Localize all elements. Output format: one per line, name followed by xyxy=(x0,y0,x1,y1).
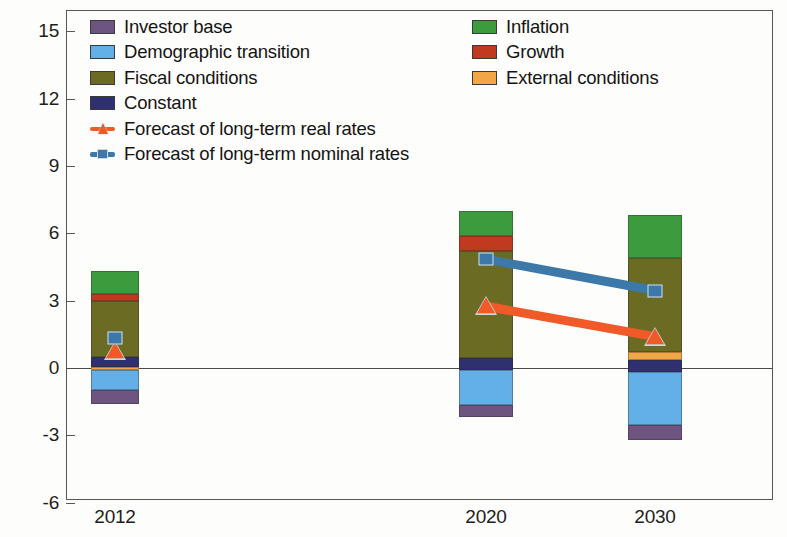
nominal-rate-marker-2020 xyxy=(486,259,501,272)
square-marker-icon xyxy=(97,149,108,159)
chart-legend: Investor baseDemographic transitionFisca… xyxy=(72,14,767,174)
legend-item-investor-base[interactable]: Investor base xyxy=(90,14,409,40)
x-tick-label-2012: 2012 xyxy=(94,506,135,528)
y-tick-label: 15 xyxy=(13,20,59,42)
bar-segment-demographic-transition-2012 xyxy=(91,370,139,390)
y-tick-mark xyxy=(66,301,75,302)
x-tick-label-2030: 2030 xyxy=(634,506,675,528)
legend-label: Growth xyxy=(506,41,564,63)
legend-swatch-icon xyxy=(472,20,497,34)
legend-label: Constant xyxy=(124,92,196,114)
y-tick-mark xyxy=(66,435,75,436)
legend-label: Demographic transition xyxy=(124,41,310,63)
bar-segment-investor-base-2020 xyxy=(459,405,513,417)
legend-line-triangle-icon xyxy=(90,122,115,136)
nominal-rate-marker-2030 xyxy=(655,291,670,304)
bar-segment-investor-base-2012 xyxy=(91,390,139,403)
legend-item-demographic-transition[interactable]: Demographic transition xyxy=(90,40,409,66)
bar-segment-growth-2020 xyxy=(459,236,513,252)
square-marker-icon xyxy=(648,284,663,297)
legend-item-forecast-of-long-term-nominal-rates[interactable]: Forecast of long-term nominal rates xyxy=(90,142,409,168)
legend-swatch-icon xyxy=(90,71,115,85)
bar-segment-constant-2030 xyxy=(628,360,682,372)
y-tick-mark xyxy=(66,503,75,504)
legend-swatch-icon xyxy=(90,96,115,110)
y-tick-label: 6 xyxy=(13,222,59,244)
y-tick-mark xyxy=(66,233,75,234)
bar-segment-inflation-2030 xyxy=(628,215,682,258)
bar-segment-demographic-transition-2020 xyxy=(459,370,513,405)
legend-swatch-icon xyxy=(472,45,497,59)
legend-column-right: InflationGrowthExternal conditions xyxy=(472,14,659,91)
legend-label: Forecast of long-term nominal rates xyxy=(124,143,409,165)
legend-label: Fiscal conditions xyxy=(124,67,257,89)
legend-column-left: Investor baseDemographic transitionFisca… xyxy=(90,14,409,167)
legend-line-square-icon xyxy=(90,147,115,161)
bar-segment-inflation-2012 xyxy=(91,271,139,293)
legend-swatch-icon xyxy=(472,71,497,85)
legend-label: Inflation xyxy=(506,16,569,38)
legend-item-inflation[interactable]: Inflation xyxy=(472,14,659,40)
legend-label: Forecast of long-term real rates xyxy=(124,118,376,140)
y-tick-label: -6 xyxy=(13,492,59,514)
legend-item-fiscal-conditions[interactable]: Fiscal conditions xyxy=(90,65,409,91)
triangle-marker-icon xyxy=(646,328,664,344)
legend-item-constant[interactable]: Constant xyxy=(90,91,409,117)
bar-segment-demographic-transition-2030 xyxy=(628,372,682,425)
y-tick-label: -3 xyxy=(13,424,59,446)
nominal-rate-marker-2012 xyxy=(115,338,130,351)
legend-swatch-icon xyxy=(90,45,115,59)
square-marker-icon xyxy=(479,253,494,266)
legend-item-forecast-of-long-term-real-rates[interactable]: Forecast of long-term real rates xyxy=(90,116,409,142)
bar-segment-inflation-2020 xyxy=(459,211,513,236)
triangle-marker-icon xyxy=(477,297,495,313)
x-tick-label-2020: 2020 xyxy=(465,506,506,528)
legend-item-growth[interactable]: Growth xyxy=(472,40,659,66)
y-tick-label: 3 xyxy=(13,290,59,312)
y-tick-label: 9 xyxy=(13,155,59,177)
legend-label: External conditions xyxy=(506,67,659,89)
bar-segment-external-conditions-2030 xyxy=(628,352,682,360)
legend-item-external-conditions[interactable]: External conditions xyxy=(472,65,659,91)
y-tick-label: 12 xyxy=(13,88,59,110)
square-marker-icon xyxy=(108,331,123,344)
y-tick-label: 0 xyxy=(13,357,59,379)
legend-label: Investor base xyxy=(124,16,232,38)
triangle-marker-icon xyxy=(98,123,108,134)
bar-segment-constant-2020 xyxy=(459,358,513,370)
bar-segment-investor-base-2030 xyxy=(628,425,682,440)
legend-swatch-icon xyxy=(90,20,115,34)
bar-segment-growth-2012 xyxy=(91,294,139,301)
chart-figure: -6-303691215 201220202030 Investor baseD… xyxy=(0,0,787,537)
